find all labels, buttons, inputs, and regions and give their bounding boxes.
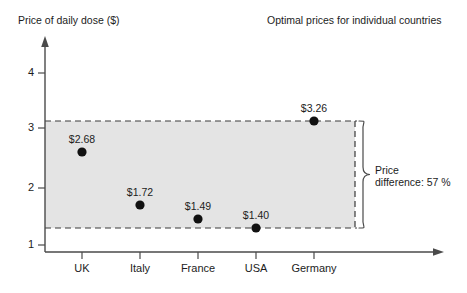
y-tick-label-4: 4 [14,66,34,79]
data-point-germany [309,116,318,125]
price-difference-line2: difference: 57 % [375,176,463,188]
y-tick-label-1: 1 [14,238,34,251]
x-tick-label-france: France [166,262,230,275]
x-axis-arrowhead [433,248,444,256]
data-label-uk: $2.68 [55,133,109,145]
price-difference-brace [359,121,370,228]
y-tick-label-2: 2 [14,181,34,194]
data-point-italy [135,200,144,209]
data-point-usa [251,223,260,232]
data-label-italy: $1.72 [113,186,167,198]
data-label-usa: $1.40 [229,209,283,221]
data-point-france [193,214,202,223]
data-label-france: $1.49 [171,200,225,212]
y-axis-arrowhead [41,36,49,47]
y-tick-label-3: 3 [14,121,34,134]
data-label-germany: $3.26 [287,102,341,114]
price-difference-annotation: Price difference: 57 % [375,164,463,188]
data-point-uk [77,147,86,156]
chart-title: Optimal prices for individual countries [267,14,442,26]
chart-figure: Price of daily dose ($) Optimal prices f… [0,0,467,293]
plot-canvas [0,0,467,293]
x-tick-label-germany: Germany [282,262,346,275]
y-axis-title: Price of daily dose ($) [18,14,120,26]
x-tick-label-italy: Italy [108,262,172,275]
x-tick-label-usa: USA [224,262,288,275]
x-tick-label-uk: UK [50,262,114,275]
price-difference-line1: Price [375,164,399,176]
